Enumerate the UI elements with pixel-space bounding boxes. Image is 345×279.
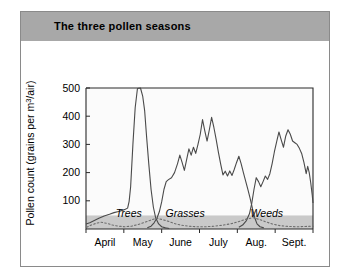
y-axis-title: Pollen count (grains per m3/air) — [24, 81, 37, 226]
x-tick-label: Aug. — [245, 236, 267, 248]
plot-area-wrapper: 100200300400500 AprilMayJuneJulyAug.Sept… — [21, 41, 331, 267]
y-tick-label: 300 — [62, 138, 80, 150]
y-tick-label: 400 — [62, 110, 80, 122]
pollen-seasons-chart: 100200300400500 AprilMayJuneJulyAug.Sept… — [21, 41, 331, 267]
series-label-weeds: Weeds — [251, 207, 284, 219]
x-tick-label: April — [94, 236, 115, 248]
series-label-grasses: Grasses — [166, 207, 206, 219]
chart-title-bar: The three pollen seasons — [21, 12, 329, 41]
x-tick-label: Sept. — [282, 236, 307, 248]
figure-frame: The three pollen seasons 100200300400500… — [20, 11, 330, 267]
x-axis-ticks: AprilMayJuneJulyAug.Sept. — [86, 229, 313, 248]
x-tick-label: June — [169, 236, 192, 248]
x-tick-label: May — [133, 236, 154, 248]
series-label-trees: Trees — [116, 207, 143, 219]
series-annotations: TreesGrassesWeeds — [116, 207, 284, 219]
x-tick-label: July — [209, 236, 228, 248]
y-tick-label: 500 — [62, 82, 80, 94]
y-tick-label: 100 — [62, 194, 80, 206]
chart-title: The three pollen seasons — [54, 20, 191, 32]
y-tick-label: 200 — [62, 166, 80, 178]
